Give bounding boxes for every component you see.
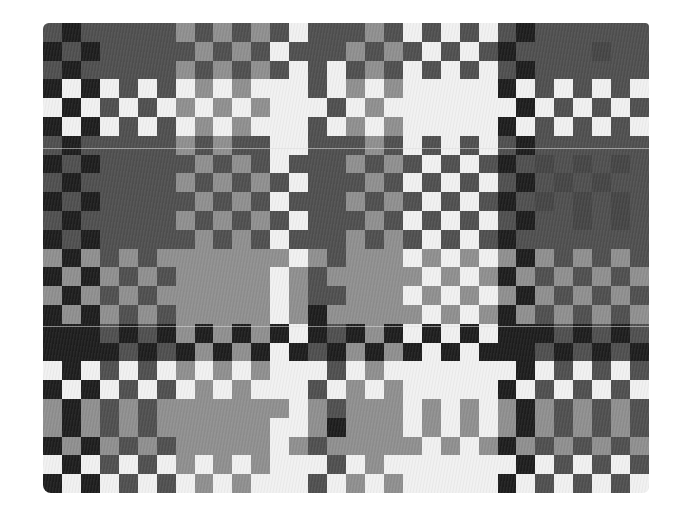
weave-cell [460, 117, 479, 136]
weave-cell [176, 42, 195, 61]
weave-cell [138, 61, 157, 80]
weave-cell [516, 474, 535, 493]
weave-cell [611, 98, 630, 117]
weave-cell [611, 380, 630, 399]
weave-cell [251, 380, 270, 399]
weave-cell [403, 418, 422, 437]
weave-cell [195, 211, 214, 230]
weave-cell [195, 98, 214, 117]
weave-cell [119, 455, 138, 474]
weave-cell [213, 305, 232, 324]
weave-cell [516, 117, 535, 136]
weave-cell [81, 211, 100, 230]
weave-cell [365, 249, 384, 268]
weave-cell [535, 211, 554, 230]
weave-cell [62, 230, 81, 249]
weave-cell [119, 418, 138, 437]
weave-cell [62, 192, 81, 211]
weave-cell [119, 343, 138, 362]
weave-cell [327, 455, 346, 474]
weave-cell [270, 42, 289, 61]
weave-cell [138, 42, 157, 61]
weave-cell [232, 211, 251, 230]
weave-cell [251, 286, 270, 305]
weave-cell [289, 286, 308, 305]
weave-cell [157, 79, 176, 98]
weave-cell [327, 211, 346, 230]
weave-cell [498, 437, 517, 456]
weave-cell [498, 23, 517, 42]
weave-cell [251, 474, 270, 493]
weave-cell [308, 305, 327, 324]
weave-cell [365, 42, 384, 61]
weave-cell [289, 230, 308, 249]
weave-cell [535, 267, 554, 286]
weave-cell [460, 173, 479, 192]
weave-cell [270, 361, 289, 380]
weave-cell [308, 343, 327, 362]
weave-cell [535, 61, 554, 80]
weave-cell [554, 437, 573, 456]
weave-cell [119, 136, 138, 155]
weave-cell [157, 98, 176, 117]
weave-cell [441, 117, 460, 136]
weave-cell [516, 343, 535, 362]
weave-cell [535, 23, 554, 42]
weave-cell [516, 324, 535, 343]
weave-cell [213, 230, 232, 249]
weave-cell [62, 380, 81, 399]
weave-cell [460, 211, 479, 230]
weave-cell [270, 192, 289, 211]
weave-cell [157, 324, 176, 343]
weave-cell [176, 155, 195, 174]
weave-cell [270, 117, 289, 136]
weave-cell [289, 249, 308, 268]
weave-cell [535, 155, 554, 174]
weave-cell [592, 211, 611, 230]
weave-cell [592, 474, 611, 493]
weave-cell [346, 418, 365, 437]
weave-cell [43, 418, 62, 437]
weave-cell [43, 249, 62, 268]
weave-cell [516, 98, 535, 117]
weave-cell [289, 399, 308, 418]
weave-cell [157, 286, 176, 305]
weave-cell [308, 98, 327, 117]
weave-cell [365, 455, 384, 474]
weave-cell [441, 399, 460, 418]
weave-cell [81, 267, 100, 286]
weave-cell [100, 192, 119, 211]
weave-cell [441, 380, 460, 399]
weave-cell [535, 455, 554, 474]
weave-cell [138, 249, 157, 268]
weave-cell [81, 437, 100, 456]
weave-cell [479, 79, 498, 98]
weave-cell [195, 474, 214, 493]
weave-cell [138, 361, 157, 380]
weave-cell [138, 79, 157, 98]
weave-cell [213, 173, 232, 192]
weave-cell [516, 380, 535, 399]
weave-cell [100, 136, 119, 155]
weave-cell [308, 79, 327, 98]
weave-cell [384, 455, 403, 474]
weave-cell [479, 324, 498, 343]
weave-cell [592, 267, 611, 286]
weave-cell [119, 230, 138, 249]
weave-cell [213, 192, 232, 211]
weave-cell [460, 249, 479, 268]
weave-cell [327, 79, 346, 98]
weave-cell [176, 418, 195, 437]
weave-cell [308, 23, 327, 42]
weave-cell [195, 343, 214, 362]
weave-cell [516, 455, 535, 474]
weave-cell [384, 155, 403, 174]
weave-cell [630, 42, 649, 61]
weave-cell [630, 173, 649, 192]
weave-cell [176, 474, 195, 493]
weave-cell [213, 211, 232, 230]
weave-cell [592, 61, 611, 80]
weave-cell [365, 61, 384, 80]
weave-cell [479, 136, 498, 155]
weave-cell [232, 399, 251, 418]
